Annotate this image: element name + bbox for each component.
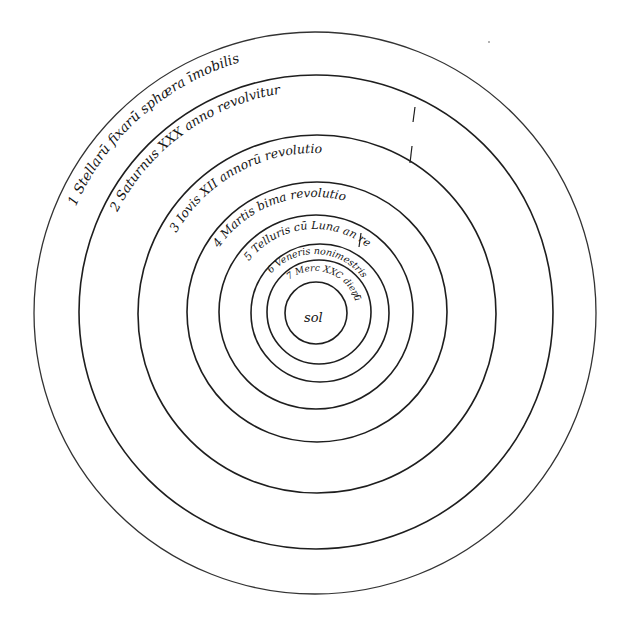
heliocentric-diagram: 1 Stellarū fixarū sphæra īmobilis2 Satur… [0,0,627,619]
label-mars: 4 Martis bima revolutio [209,186,347,251]
tick-saturn [413,107,415,122]
paper-speck [488,41,490,43]
sun-label: sol [304,310,323,325]
tick-jupiter [410,146,412,163]
sphere-labels: 1 Stellarū fixarū sphæra īmobilis2 Satur… [64,50,374,303]
label-earth-path: 5 Telluris cū Luna an re [241,219,374,263]
label-mars-path: 4 Martis bima revolutio [209,186,347,251]
label-earth: 5 Telluris cū Luna an re [241,219,374,263]
